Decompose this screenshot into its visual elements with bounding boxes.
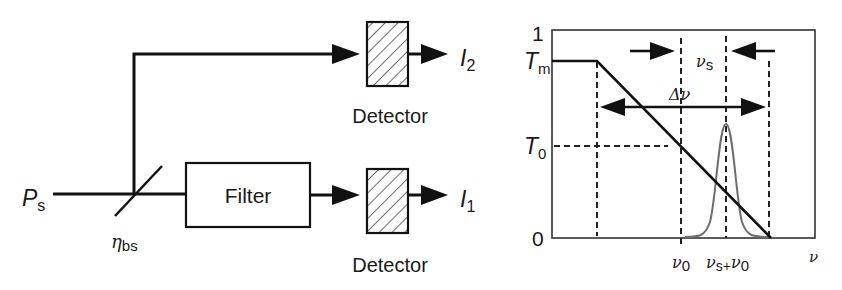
optical-setup: Ps ηbs Filter Detector Detector I2 I1 (22, 22, 475, 276)
diagram-canvas: Ps ηbs Filter Detector Detector I2 I1 1 (0, 0, 842, 290)
delta-nu-label: Δν (668, 85, 691, 104)
output-current-i1-label: I1 (460, 186, 475, 215)
output-arrow-top (421, 44, 448, 64)
delta-nu-arrowhead-left (600, 98, 625, 116)
detector-top-label: Detector (352, 105, 428, 127)
filter-label: Filter (225, 184, 272, 207)
nu-s-label: νs (696, 52, 713, 73)
delta-nu-arrowhead-right (741, 98, 766, 116)
input-power-label: Ps (22, 185, 45, 214)
transmission-curve (552, 61, 771, 238)
filter-transmission-plot: 1 Tm T0 0 ν0 νs+ν0 ν Δν νs (524, 22, 818, 274)
y-tick-one: 1 (532, 22, 544, 45)
y-tick-tm: Tm (524, 48, 551, 77)
y-tick-zero: 0 (532, 227, 544, 250)
detector-bottom-label: Detector (352, 254, 428, 276)
output-arrow-bottom (421, 185, 448, 205)
x-tick-nu0: ν0 (672, 253, 690, 274)
arrow-to-detector-bottom (332, 185, 360, 205)
beamsplitter-efficiency-label: ηbs (111, 231, 138, 254)
nu-s-arrowhead-left-pointing (731, 42, 756, 60)
nu-s-arrowhead-right-pointing (650, 42, 675, 60)
beam-splitter (115, 166, 162, 216)
x-tick-nus-plus-nu0: νs+ν0 (706, 253, 749, 274)
detector-bottom (367, 169, 408, 233)
x-axis-label-nu: ν (809, 248, 818, 266)
y-tick-t0: T0 (524, 133, 546, 162)
arrow-to-detector-top (332, 44, 360, 64)
output-current-i2-label: I2 (460, 45, 475, 74)
detector-top (367, 22, 408, 86)
